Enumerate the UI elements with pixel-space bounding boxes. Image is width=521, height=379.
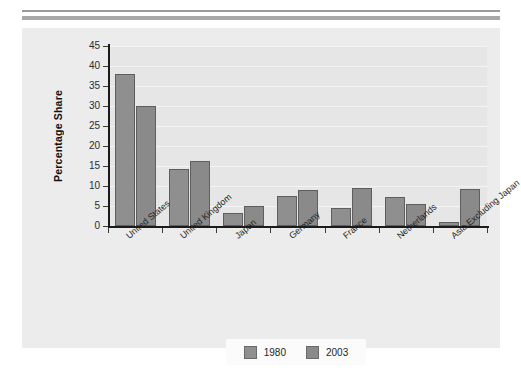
y-axis-tick-label: 45	[74, 41, 100, 51]
legend-item-1980: 1980	[244, 346, 286, 359]
y-axis-tick-label: 10	[74, 181, 100, 191]
y-axis-tick-label: 0	[74, 221, 100, 231]
gridline	[108, 46, 487, 47]
gridline	[108, 106, 487, 107]
chart-panel: 454035302520151050 Percentage Share Unit…	[22, 28, 500, 348]
y-axis-tick	[103, 186, 108, 187]
legend-label-1980: 1980	[264, 347, 286, 358]
y-axis-tick	[103, 166, 108, 167]
gridline	[108, 86, 487, 87]
legend-swatch-2003-icon	[306, 346, 319, 359]
header-rule-thick	[22, 16, 500, 20]
y-axis-tick	[103, 206, 108, 207]
x-axis-tick	[108, 228, 109, 233]
bar-1980-united-states	[115, 74, 135, 226]
bar-1980-germany	[277, 196, 297, 226]
legend-item-2003: 2003	[306, 346, 348, 359]
y-axis-tick-label: 30	[74, 101, 100, 111]
y-axis-tick-label: 15	[74, 161, 100, 171]
y-axis-tick-label: 35	[74, 81, 100, 91]
y-axis-tick	[103, 146, 108, 147]
scanned-page: 454035302520151050 Percentage Share Unit…	[0, 0, 521, 379]
y-axis-tick	[103, 86, 108, 87]
legend-swatch-1980-icon	[244, 346, 257, 359]
x-axis-tick	[216, 228, 217, 233]
y-axis-tick	[103, 46, 108, 47]
x-axis-tick	[325, 228, 326, 233]
x-axis-tick	[433, 228, 434, 233]
gridline	[108, 126, 487, 127]
chart-legend: 1980 2003	[226, 339, 366, 365]
bar-1980-united-kingdom	[169, 169, 189, 226]
header-rule-band	[22, 10, 500, 22]
x-axis-tick	[162, 228, 163, 233]
bar-1980-france	[331, 208, 351, 226]
bar-1980-japan	[223, 213, 243, 226]
x-axis-tick	[379, 228, 380, 233]
gridline	[108, 186, 487, 187]
y-axis-tick	[103, 66, 108, 67]
x-axis-tick	[487, 228, 488, 233]
y-axis-tick-label: 5	[74, 201, 100, 211]
x-axis-tick	[270, 228, 271, 233]
legend-label-2003: 2003	[326, 347, 348, 358]
header-rule-thin-top	[22, 10, 500, 12]
y-axis-line	[108, 44, 110, 228]
y-axis-tick-label: 20	[74, 141, 100, 151]
y-axis-tick	[103, 126, 108, 127]
gridline	[108, 166, 487, 167]
gridline	[108, 66, 487, 67]
gridline	[108, 146, 487, 147]
y-axis-title: Percentage Share	[52, 90, 66, 182]
y-axis-tick	[103, 226, 108, 227]
y-axis-tick-labels: 454035302520151050	[72, 28, 100, 248]
bar-1980-netherlands	[385, 197, 405, 226]
y-axis-tick-label: 25	[74, 121, 100, 131]
y-axis-tick	[103, 106, 108, 107]
y-axis-tick-label: 40	[74, 61, 100, 71]
